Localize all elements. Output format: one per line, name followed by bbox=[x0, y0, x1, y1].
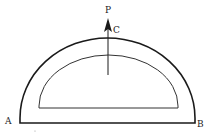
label-a: A bbox=[4, 116, 12, 126]
protractor-diagram: P C A B bbox=[0, 0, 209, 136]
label-c: C bbox=[113, 25, 120, 35]
label-b: B bbox=[197, 119, 204, 129]
stray-dot bbox=[34, 130, 35, 131]
label-p: P bbox=[105, 5, 111, 15]
